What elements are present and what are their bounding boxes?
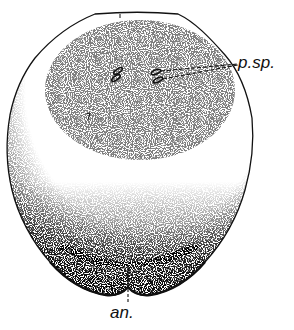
label-p-sp: p.sp.: [238, 54, 275, 71]
larva-drawing: [0, 0, 294, 330]
label-an: an.: [110, 304, 134, 321]
illustration: p.sp. an.: [0, 0, 294, 330]
